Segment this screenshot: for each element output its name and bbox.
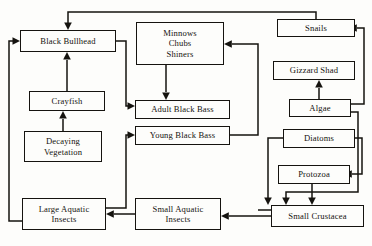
arrowhead-adult-bass-top [162, 93, 170, 101]
node-label: Snails [305, 23, 327, 33]
node-label: Young Black Bass [150, 130, 216, 140]
edge-black-bullhead-to-adult-bass [116, 41, 129, 106]
node-crayfish[interactable]: Crayfish [29, 91, 105, 111]
edge-young-bass-to-minnows [230, 44, 258, 135]
node-diatoms[interactable]: Diatoms [283, 129, 355, 148]
node-label: Small Crustacea [288, 211, 346, 221]
arrowhead-gizzard-shad-bottom [315, 80, 323, 88]
arrowhead-black-bullhead-left [13, 37, 21, 45]
node-label: Protozoa [298, 169, 330, 179]
arrowhead-black-bullhead-top [64, 23, 72, 31]
node-label: Crayfish [52, 96, 83, 106]
node-label: Large Aquatic Insects [39, 204, 90, 225]
arrowhead-crayfish-bottom [59, 111, 67, 119]
arrowhead-small-crustacea-top-left [264, 198, 272, 206]
node-minnows-chubs-shiners[interactable]: Minnows Chubs Shiners [136, 22, 224, 65]
arrowhead-small-crustacea-top [308, 198, 316, 206]
arrowhead-young-bass-left [128, 131, 136, 139]
node-young-black-bass[interactable]: Young Black Bass [135, 126, 230, 145]
edge-algae-to-small-crustacea [286, 112, 358, 199]
food-web-diagram: Black Bullhead Minnows Chubs Shiners Sna… [0, 0, 372, 246]
node-adult-black-bass[interactable]: Adult Black Bass [135, 100, 230, 119]
node-label: Algae [309, 103, 330, 113]
edge-large-insects-to-young-bass [106, 135, 129, 208]
node-small-crustacea[interactable]: Small Crustacea [271, 205, 364, 227]
arrowhead-small-crustacea-left-top [282, 198, 290, 206]
node-label: Decaying Vegetation [44, 136, 82, 157]
node-snails[interactable]: Snails [277, 19, 355, 37]
edge-large-insects-to-black-bullhead [9, 41, 22, 221]
arrowhead-small-insects-right [221, 212, 229, 220]
node-small-aquatic-insects[interactable]: Small Aquatic Insects [135, 198, 221, 230]
arrowhead-minnows-right [224, 40, 232, 48]
node-label: Black Bullhead [40, 36, 95, 46]
node-label: Small Aquatic Insects [153, 204, 204, 225]
node-protozoa[interactable]: Protozoa [278, 165, 350, 184]
node-black-bullhead[interactable]: Black Bullhead [20, 30, 116, 52]
arrowhead-black-bullhead-bottom [63, 52, 71, 60]
arrowhead-adult-bass-left [128, 102, 136, 110]
node-algae[interactable]: Algae [289, 99, 351, 117]
node-label: Diatoms [304, 133, 334, 143]
node-label: Gizzard Shad [290, 65, 338, 75]
arrowhead-large-insects-right [106, 210, 114, 218]
node-label: Adult Black Bass [151, 104, 214, 114]
node-large-aquatic-insects[interactable]: Large Aquatic Insects [22, 198, 106, 230]
node-decaying-vegetation[interactable]: Decaying Vegetation [24, 131, 102, 162]
node-label: Minnows Chubs Shiners [163, 28, 197, 59]
node-gizzard-shad[interactable]: Gizzard Shad [273, 61, 355, 80]
